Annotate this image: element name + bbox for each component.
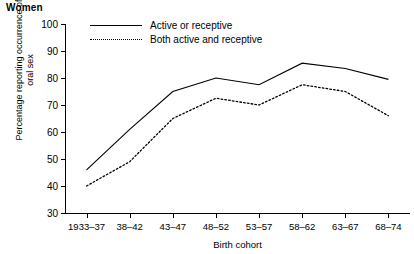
plot-area: 30405060708090100 1933–3738–4243–4748–52… [65,24,410,213]
x-tick-2 [173,213,174,218]
x-tick-label-3: 48–52 [203,221,229,232]
x-axis-line [65,213,410,214]
legend-item-0: Active or receptive [90,18,262,32]
x-tick-4 [259,213,260,218]
y-tick-label-90: 90 [47,46,58,57]
figure-women-oral-sex: Women Percentage reporting occurrence of… [0,0,414,254]
series-line-0 [87,63,389,170]
x-tick-6 [345,213,346,218]
y-tick-label-50: 50 [47,154,58,165]
y-tick-label-80: 80 [47,73,58,84]
y-tick-label-100: 100 [41,19,58,30]
legend-item-1: Both active and receptive [90,32,262,46]
x-tick-label-7: 68–74 [375,221,401,232]
x-tick-label-0: 1933–37 [68,221,105,232]
x-tick-label-6: 63–67 [332,221,358,232]
y-tick-label-60: 60 [47,127,58,138]
y-axis-title: Percentage reporting occurrence of oral … [14,0,40,155]
x-tick-label-2: 43–47 [160,221,186,232]
y-tick-label-70: 70 [47,100,58,111]
legend-key-solid-icon [90,20,142,30]
legend-label-0: Active or receptive [150,20,232,31]
chart-legend: Active or receptiveBoth active and recep… [90,18,262,46]
y-tick-30 [61,213,65,214]
series-line-1 [87,85,389,186]
series-lines [65,24,410,213]
legend-label-1: Both active and receptive [150,34,262,45]
y-axis-title-line-2: oral sex [25,0,36,155]
legend-key-dotted-icon [90,34,142,44]
x-axis-title: Birth cohort [65,239,410,250]
y-axis-title-line-1: Percentage reporting occurrence of [14,0,25,155]
x-tick-label-4: 53–57 [246,221,272,232]
x-tick-1 [130,213,131,218]
x-tick-7 [388,213,389,218]
x-tick-3 [216,213,217,218]
x-tick-label-1: 38–42 [116,221,142,232]
x-tick-5 [302,213,303,218]
y-tick-label-40: 40 [47,181,58,192]
x-tick-0 [87,213,88,218]
x-tick-label-5: 58–62 [289,221,315,232]
y-tick-label-30: 30 [47,208,58,219]
